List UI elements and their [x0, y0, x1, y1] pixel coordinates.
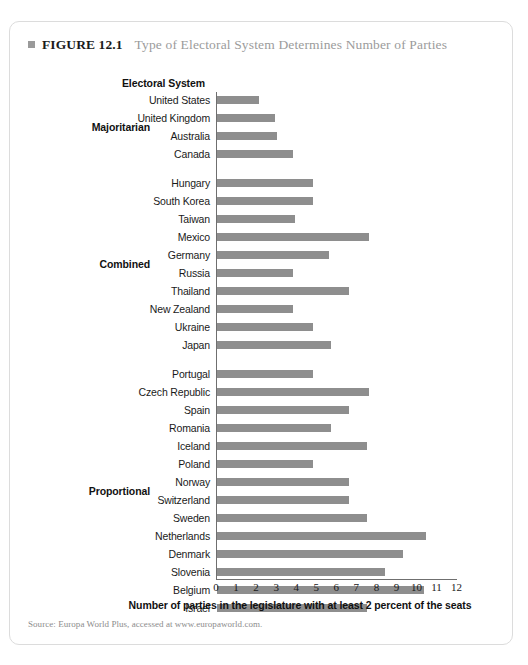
bar-category-label: Spain: [10, 403, 210, 417]
bar: [217, 442, 367, 450]
bar-category-label: Ukraine: [10, 320, 210, 334]
bar: [217, 550, 403, 558]
bar: [217, 305, 293, 313]
y-axis-heading: Electoral System: [10, 77, 205, 89]
bar: [217, 179, 313, 187]
bar-category-label: Denmark: [10, 547, 210, 561]
figure-source: Source: Europa World Plus, accessed at w…: [28, 619, 262, 629]
bar-category-label: Romania: [10, 421, 210, 435]
chart-row: Czech Republic: [10, 384, 514, 402]
bar: [217, 406, 349, 414]
bar: [217, 251, 329, 259]
chart-row: Taiwan: [10, 211, 514, 229]
figure-title: Type of Electoral System Determines Numb…: [135, 37, 448, 53]
chart-row: Sweden: [10, 510, 514, 528]
bar: [217, 197, 313, 205]
bar: [217, 424, 331, 432]
bar: [217, 287, 349, 295]
square-bullet-icon: [28, 41, 35, 48]
chart-row: New Zealand: [10, 301, 514, 319]
bar-category-label: Taiwan: [10, 212, 210, 226]
bar: [217, 514, 367, 522]
bar-category-label: Slovenia: [10, 565, 210, 579]
chart-row: Spain: [10, 402, 514, 420]
bar-category-label: United States: [10, 93, 210, 107]
bar: [217, 215, 295, 223]
bar-category-label: South Korea: [10, 194, 210, 208]
chart-row: Ukraine: [10, 319, 514, 337]
bar: [217, 269, 293, 277]
bar-category-label: Canada: [10, 147, 210, 161]
figure-card: FIGURE 12.1 Type of Electoral System Det…: [9, 21, 513, 645]
bar: [217, 96, 259, 104]
chart-row: Denmark: [10, 546, 514, 564]
chart-row: Netherlands: [10, 528, 514, 546]
figure-header: FIGURE 12.1 Type of Electoral System Det…: [28, 37, 500, 53]
group-label-majoritarian: Majoritarian: [10, 121, 150, 133]
bar: [217, 132, 277, 140]
bar-category-label: Japan: [10, 338, 210, 352]
chart-row: Poland: [10, 456, 514, 474]
chart-row: Canada: [10, 146, 514, 164]
x-axis-ticks: 0123456789101112: [10, 581, 514, 595]
chart-row: Japan: [10, 337, 514, 355]
chart-row: South Korea: [10, 193, 514, 211]
bar: [217, 341, 331, 349]
chart-container: Electoral System United StatesUnited Kin…: [10, 66, 514, 626]
bar: [217, 532, 426, 540]
bar: [217, 460, 313, 468]
chart-row: Mexico: [10, 229, 514, 247]
x-tick-label: 12: [444, 581, 470, 593]
bar: [217, 150, 293, 158]
bar-category-label: Portugal: [10, 367, 210, 381]
bar-category-label: Mexico: [10, 230, 210, 244]
chart-row: United States: [10, 92, 514, 110]
bar-category-label: New Zealand: [10, 302, 210, 316]
figure-number-label: FIGURE 12.1: [42, 37, 123, 53]
x-axis-title: Number of parties in the legislature wit…: [110, 598, 490, 612]
chart-row: Iceland: [10, 438, 514, 456]
bar-category-label: Czech Republic: [10, 385, 210, 399]
bar: [217, 568, 385, 576]
bar: [217, 233, 369, 241]
figure-page: FIGURE 12.1 Type of Electoral System Det…: [0, 0, 528, 665]
bar: [217, 496, 349, 504]
bar: [217, 478, 349, 486]
plot-area: United StatesUnited KingdomAustraliaCana…: [10, 92, 514, 579]
bar: [217, 388, 369, 396]
bar-category-label: Poland: [10, 457, 210, 471]
bar: [217, 370, 313, 378]
chart-row: Slovenia: [10, 564, 514, 582]
bar-category-label: Thailand: [10, 284, 210, 298]
bar-category-label: Netherlands: [10, 529, 210, 543]
bar: [217, 114, 275, 122]
chart-row: Thailand: [10, 283, 514, 301]
group-label-combined: Combined: [10, 258, 150, 270]
bar: [217, 323, 313, 331]
bar-category-label: Iceland: [10, 439, 210, 453]
group-label-proportional: Proportional: [10, 485, 150, 497]
bar-category-label: Sweden: [10, 511, 210, 525]
bar-category-label: Hungary: [10, 176, 210, 190]
chart-row: Hungary: [10, 175, 514, 193]
chart-row: Romania: [10, 420, 514, 438]
chart-row: Portugal: [10, 366, 514, 384]
